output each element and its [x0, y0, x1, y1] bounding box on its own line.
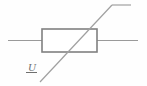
circuit-diagram-figure: Variable resistor (potentiometer) with v… [0, 0, 147, 86]
resistor-body-rectangle [42, 29, 97, 52]
circuit-symbol-canvas: Variable resistor (potentiometer) with v… [0, 0, 147, 86]
voltage-label-u: U [28, 61, 37, 73]
